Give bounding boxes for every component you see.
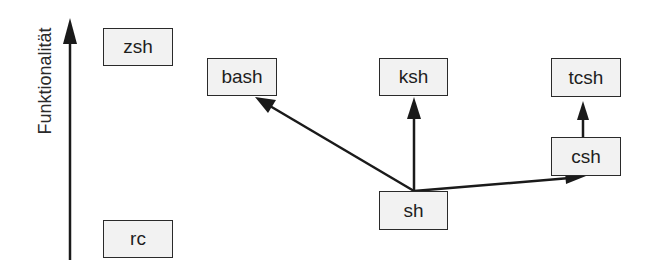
- edge-sh-to-bash: [255, 97, 414, 191]
- node-sh: sh: [379, 191, 448, 230]
- node-bash: bash: [207, 58, 277, 96]
- edge-csh-to-tcsh: [577, 101, 589, 137]
- functionality-axis-arrow: [63, 18, 77, 260]
- node-tcsh: tcsh: [551, 58, 621, 97]
- node-ksh: ksh: [379, 58, 448, 96]
- functionality-axis-label: Funktionalität: [35, 27, 56, 134]
- shell-evolution-diagram: Funktionalität zsh rc bash ksh tcsh csh …: [0, 0, 654, 272]
- node-csh: csh: [551, 137, 621, 176]
- node-zsh: zsh: [103, 28, 173, 66]
- diagram-edges: [0, 0, 654, 272]
- edge-sh-to-ksh: [407, 97, 421, 191]
- node-rc: rc: [103, 220, 173, 258]
